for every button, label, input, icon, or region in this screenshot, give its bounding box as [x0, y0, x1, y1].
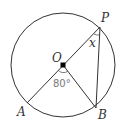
chord-PB — [96, 27, 100, 108]
label-O: O — [52, 51, 62, 65]
label-P: P — [100, 11, 110, 25]
geometry-diagram: O P A B x 80° — [0, 0, 122, 125]
label-x: x — [89, 36, 96, 50]
angle-arc-AOB — [58, 70, 68, 73]
angle-arc-OPB — [94, 34, 99, 35]
label-80deg: 80° — [53, 78, 71, 89]
label-B: B — [97, 108, 107, 122]
label-A: A — [16, 105, 26, 119]
